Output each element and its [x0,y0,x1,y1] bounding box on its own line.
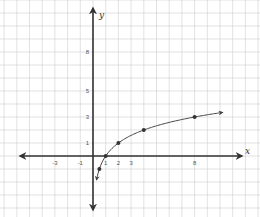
log-function-graph: x y -3-11238 1358 [0,0,260,217]
x-tick-label: -3 [52,160,58,166]
data-point [142,128,146,132]
grid-lines [0,0,260,217]
y-tick-labels: 1358 [86,49,90,146]
x-tick-label: 1 [104,160,108,166]
x-tick-label: 2 [117,160,121,166]
y-axis-label: y [98,10,105,20]
x-tick-label: 8 [193,160,197,166]
data-point [116,141,120,145]
x-tick-label: 3 [129,160,133,166]
x-tick-labels: -3-11238 [52,160,197,166]
data-point [97,167,101,171]
x-axis-label: x [245,146,250,156]
data-point [193,115,197,119]
data-point [104,154,108,158]
x-tick-label: -1 [78,160,84,166]
